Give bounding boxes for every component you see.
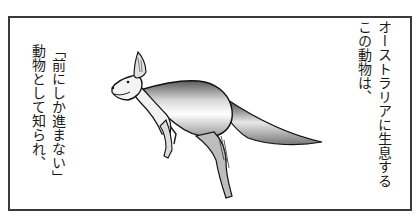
caption-left-line-2: 動物として知られ、 xyxy=(28,44,48,184)
caption-right: オーストラリアに生息する この動物は、 xyxy=(354,20,394,188)
caption-left-line-1: 「前にしか進まない」 xyxy=(48,44,68,184)
caption-right-line-2: この動物は、 xyxy=(354,20,374,188)
caption-left: 「前にしか進まない」 動物として知られ、 xyxy=(28,44,68,184)
caption-right-line-1: オーストラリアに生息する xyxy=(374,20,394,188)
